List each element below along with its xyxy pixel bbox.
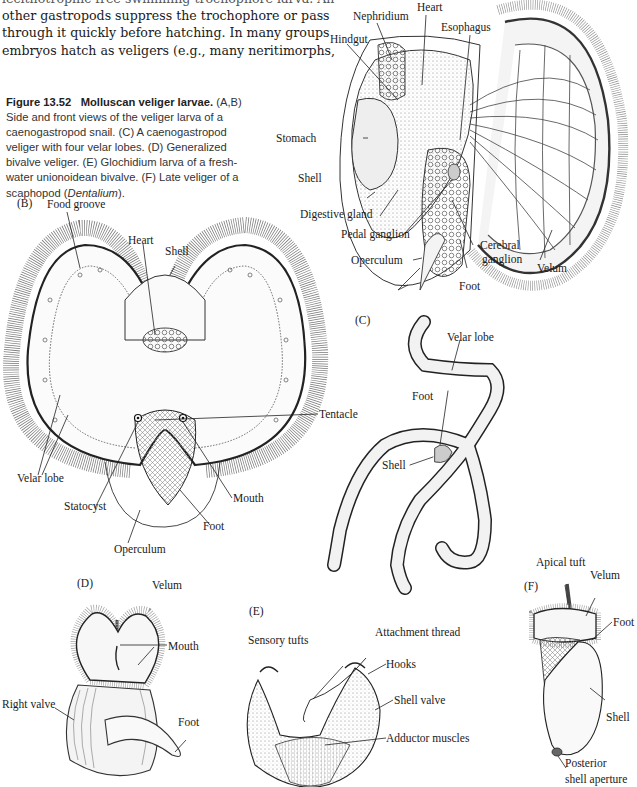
label-e-sensory-tufts: Sensory tufts (248, 634, 308, 646)
label-e-adductor-muscles: Adductor muscles (386, 732, 469, 744)
label-f-apical-tuft: Apical tuft (536, 556, 586, 568)
panel-id-c: (C) (355, 314, 370, 326)
label-a-operculum: Operculum (351, 254, 403, 266)
label-b-mouth: Mouth (233, 492, 264, 504)
label-d-right-valve: Right valve (2, 698, 55, 710)
label-a-stomach: Stomach (276, 132, 316, 144)
panel-id-d: (D) (77, 577, 93, 589)
figure-illustrations (0, 0, 637, 787)
label-b-shell: Shell (165, 245, 189, 257)
panel-id-e: (E) (249, 605, 264, 617)
panel-id-b: (B) (17, 197, 32, 209)
label-a-hindgut: Hindgut (330, 33, 368, 45)
label-a-heart: Heart (417, 1, 443, 13)
label-a-cerebral-ganglion-1: Cerebral (480, 239, 520, 251)
label-f-posterior-1: Posterior (565, 757, 607, 769)
label-b-food-groove: Food groove (47, 198, 105, 210)
panel-b-front-view (11, 212, 320, 543)
label-f-posterior-2: shell aperture (565, 773, 627, 785)
panel-d-bivalve-veliger (55, 609, 186, 775)
label-b-operculum: Operculum (114, 543, 166, 555)
label-e-attachment-thread: Attachment thread (375, 626, 460, 638)
label-a-shell: Shell (298, 172, 322, 184)
label-b-heart: Heart (128, 234, 154, 246)
label-a-velum: Velum (537, 262, 567, 274)
label-f-foot: Foot (613, 616, 634, 628)
label-d-foot: Foot (178, 716, 199, 728)
label-a-cerebral-ganglion-2: ganglion (482, 253, 522, 265)
label-e-hooks: Hooks (386, 658, 416, 670)
label-b-tentacle: Tentacle (319, 408, 358, 420)
label-c-shell: Shell (382, 459, 406, 471)
label-d-mouth: Mouth (168, 640, 199, 652)
label-c-velar-lobe: Velar lobe (447, 331, 494, 343)
panel-id-f: (F) (524, 580, 538, 592)
label-a-esophagus: Esophagus (441, 21, 491, 33)
label-b-statocyst: Statocyst (64, 500, 106, 512)
label-a-digestive-gland: Digestive gland (300, 208, 373, 220)
label-f-velum: Velum (590, 569, 620, 581)
panel-f-scaphopod-veliger (532, 584, 612, 768)
label-a-nephridium: Nephridium (353, 10, 409, 22)
panel-e-glochidium (247, 658, 393, 787)
label-b-foot: Foot (203, 520, 224, 532)
label-d-velum: Velum (152, 579, 182, 591)
label-a-foot: Foot (459, 280, 480, 292)
panel-c-four-lobe-veliger (334, 322, 498, 588)
label-b-velar-lobe: Velar lobe (17, 472, 64, 484)
label-e-shell-valve: Shell valve (394, 694, 445, 706)
label-a-pedal-ganglion: Pedal ganglion (341, 228, 410, 240)
label-f-shell: Shell (606, 711, 630, 723)
label-c-foot: Foot (412, 390, 433, 402)
